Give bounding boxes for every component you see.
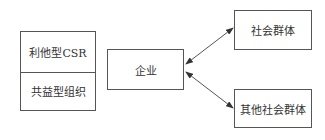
connector-arrows	[0, 0, 325, 140]
arrow-enterprise-social-group	[186, 28, 233, 64]
arrow-enterprise-other-social-group	[186, 72, 233, 108]
